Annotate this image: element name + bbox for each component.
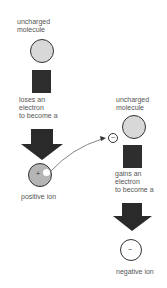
right-down-arrow-icon: [0, 0, 167, 288]
negative-sign: −: [128, 246, 132, 253]
negative-ion-label: negative ion: [116, 268, 154, 276]
